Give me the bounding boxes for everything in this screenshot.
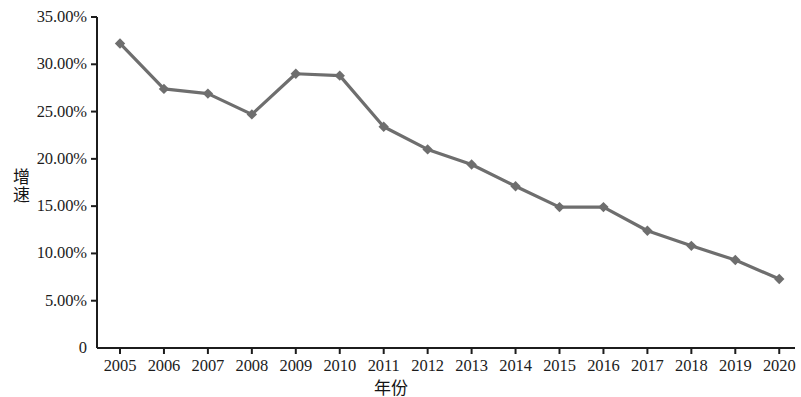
x-axis-title: 年份	[0, 374, 801, 397]
y-axis-title: 增速	[8, 168, 32, 204]
data-point-marker: 2015: 14.9%	[554, 202, 564, 212]
x-axis-tick-label: 2013	[455, 358, 488, 375]
data-point-marker: 2020: 7.3%	[774, 274, 784, 284]
y-axis-tick-label: 35.00%	[37, 9, 87, 26]
x-axis-tick-label: 2007	[192, 358, 225, 375]
y-axis-tick-label: 30.00%	[37, 56, 87, 73]
x-axis-tick-label: 2005	[104, 358, 137, 375]
growth-rate-line-chart: 2005: 32.2%2006: 27.4%2007: 26.9%2008: 2…	[0, 0, 801, 397]
x-axis-tick-label: 2018	[675, 358, 708, 375]
series-line-growth-rate	[120, 43, 779, 278]
axis-lines	[97, 17, 795, 348]
data-point-marker: 2018: 10.8%	[686, 241, 696, 251]
chart-plot-area: 2005: 32.2%2006: 27.4%2007: 26.9%2008: 2…	[0, 0, 801, 397]
y-axis-tick-label: 5.00%	[45, 292, 87, 309]
y-axis-tick-label: 20.00%	[37, 151, 87, 168]
y-axis-tick-label: 25.00%	[37, 103, 87, 120]
x-axis-tick-label: 2008	[236, 358, 269, 375]
x-axis-tick-label: 2012	[411, 358, 444, 375]
x-axis-tick-label: 2009	[279, 358, 312, 375]
data-point-marker: 2007: 26.9%	[203, 88, 213, 98]
data-point-marker: 2013: 19.4%	[466, 159, 476, 169]
x-axis-tick-label: 2016	[587, 358, 620, 375]
y-axis-tick-label: 0	[79, 340, 87, 357]
x-axis-tick-label: 2006	[148, 358, 181, 375]
x-axis-tick-label: 2017	[631, 358, 664, 375]
series-markers-growth-rate: 2005: 32.2%2006: 27.4%2007: 26.9%2008: 2…	[115, 38, 785, 284]
x-axis-tick-label: 2010	[323, 358, 356, 375]
x-axis-tick-label: 2019	[719, 358, 752, 375]
data-point-marker: 2019: 9.3%	[730, 255, 740, 265]
data-point-marker: 2014: 17.1%	[510, 181, 520, 191]
x-axis-tick-label: 2020	[763, 358, 796, 375]
y-axis-tick-label: 15.00%	[37, 198, 87, 215]
y-axis-tick-label: 10.00%	[37, 245, 87, 262]
x-axis-tick-label: 2014	[499, 358, 532, 375]
x-axis-tick-label: 2011	[368, 358, 400, 375]
x-axis-tick-label: 2015	[543, 358, 576, 375]
